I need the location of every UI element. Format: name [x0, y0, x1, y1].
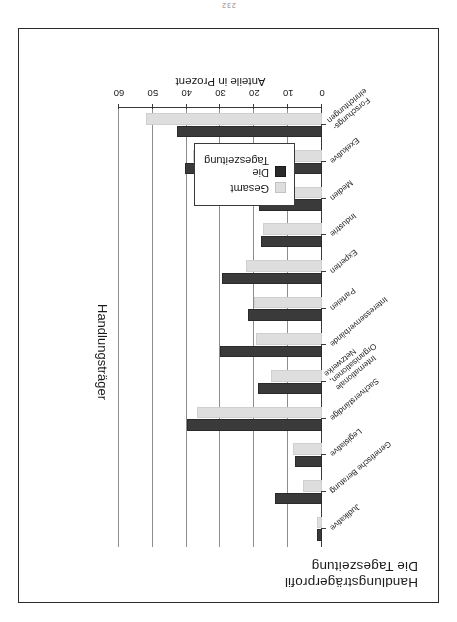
page-number: 232 [0, 2, 457, 9]
bar-gesamt [146, 113, 322, 125]
tick-label-10: 10 [283, 88, 294, 99]
value-axis-title: Anteile in Prozent [119, 76, 322, 88]
bar-die-tageszeitung [222, 273, 322, 285]
category-label: Exekutive [328, 136, 361, 166]
bar-gesamt [271, 370, 322, 382]
bar-group [119, 290, 322, 327]
category-tick [321, 454, 326, 455]
bar-gesamt [197, 407, 322, 419]
category-label: Experten [328, 247, 359, 275]
bar-chart: Handlungsträgerprofil Die Tageszeitung 0… [19, 29, 440, 604]
bar-group [119, 510, 322, 547]
bar-gesamt [293, 443, 322, 455]
bar-die-tageszeitung [221, 346, 323, 358]
bar-die-tageszeitung [295, 456, 322, 468]
legend-label: Gesamt [230, 183, 269, 195]
bar-group [119, 327, 322, 364]
bar-group [119, 364, 322, 401]
chart-title: Handlungsträgerprofil Die Tageszeitung [285, 558, 418, 590]
legend-item: Gesamt [204, 182, 286, 195]
legend-swatch-paper [275, 166, 286, 177]
bar-gesamt [246, 260, 322, 272]
bar-group [119, 400, 322, 437]
bar-gesamt [254, 297, 322, 309]
bar-gesamt [303, 480, 322, 492]
bar-gesamt [263, 223, 322, 235]
legend-swatch-total [275, 182, 286, 193]
bar-die-tageszeitung [258, 383, 322, 395]
category-tick [321, 418, 326, 419]
bar-die-tageszeitung [317, 529, 322, 541]
category-tick [321, 271, 326, 272]
bar-gesamt [256, 333, 322, 345]
bar-die-tageszeitung [261, 236, 322, 248]
bar-group [119, 437, 322, 474]
tick-label-50: 50 [148, 88, 159, 99]
tick-label-40: 40 [181, 88, 192, 99]
tick-label-30: 30 [215, 88, 226, 99]
bar-gesamt [317, 517, 322, 529]
chart-legend: GesamtDie Tageszeitung [194, 143, 295, 206]
category-label: Medien [328, 178, 354, 202]
category-tick [321, 161, 326, 162]
category-label: Judikative [328, 502, 362, 532]
bar-group [119, 217, 322, 254]
bar-die-tageszeitung [187, 419, 322, 431]
bar-die-tageszeitung [177, 126, 322, 138]
category-tick [321, 491, 326, 492]
category-tick [321, 528, 326, 529]
page-border-frame: Handlungsträgerprofil Die Tageszeitung 0… [18, 28, 439, 603]
bar-group [119, 107, 322, 144]
bar-group [119, 254, 322, 291]
tick-label-60: 60 [114, 88, 125, 99]
category-label: Forschungs- einrichtungen [325, 87, 374, 132]
rotated-figure-container: Handlungsträgerprofil Die Tageszeitung 0… [19, 29, 440, 604]
category-label: Industrie [328, 212, 358, 239]
category-tick [321, 344, 326, 345]
tick-label-20: 20 [249, 88, 260, 99]
legend-label: Die Tageszeitung [204, 155, 269, 179]
category-tick [321, 381, 326, 382]
category-label: Legislative [328, 427, 363, 459]
category-axis-title: Handlungsträger [95, 304, 110, 400]
category-tick [321, 124, 326, 125]
category-label: Parteien [328, 286, 357, 312]
bar-group [119, 474, 322, 511]
category-tick [321, 308, 326, 309]
category-tick [321, 234, 326, 235]
tick-label-0: 0 [319, 88, 324, 99]
bar-die-tageszeitung [275, 493, 322, 505]
legend-item: Die Tageszeitung [204, 155, 286, 179]
bar-die-tageszeitung [248, 309, 322, 321]
category-tick [321, 198, 326, 199]
